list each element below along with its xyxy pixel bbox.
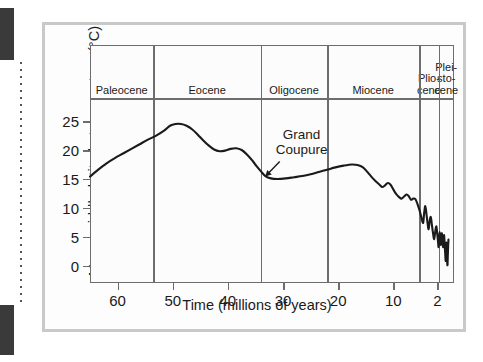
y-tick-label: 25 [62,113,79,130]
y-tick-mark [83,208,90,210]
x-tick-label: 20 [330,292,347,309]
y-tick-mark [83,179,90,181]
x-tick-mark [118,283,120,290]
scan-artifact-top [0,8,14,60]
temperature-curve-layer [90,45,454,283]
annotation-line-1: Grand [276,127,328,142]
y-tick-mark [83,121,90,123]
x-tick-mark [338,283,340,290]
y-tick-label: 5 [71,228,79,245]
page-edge-dotted-line [20,62,22,302]
y-tick-label: 20 [62,142,79,159]
x-tick-mark [437,283,439,290]
y-tick-mark [83,266,90,268]
y-tick-label: 0 [71,257,79,274]
y-tick-label: 10 [62,199,79,216]
x-tick-label: 50 [164,292,181,309]
x-tick-mark [228,283,230,290]
x-tick-label: 2 [433,292,441,309]
grand-coupure-annotation: Grand Coupure [276,127,328,157]
scan-artifact-bottom [0,305,14,355]
x-tick-label: 10 [385,292,402,309]
figure-panel: Mean middle-latitude temperature (°C) Ti… [42,22,466,332]
x-tick-mark [283,283,285,290]
y-tick-label: 15 [62,170,79,187]
x-tick-label: 60 [109,292,126,309]
x-tick-label: 40 [220,292,237,309]
annotation-line-2: Coupure [276,142,328,157]
temperature-curve [90,124,448,265]
x-tick-mark [173,283,175,290]
y-tick-mark [83,237,90,239]
plot-area: PaleoceneEoceneOligoceneMiocenePlio-cene… [90,45,454,283]
x-tick-mark [393,283,395,290]
y-tick-mark [83,150,90,152]
x-tick-label: 30 [275,292,292,309]
